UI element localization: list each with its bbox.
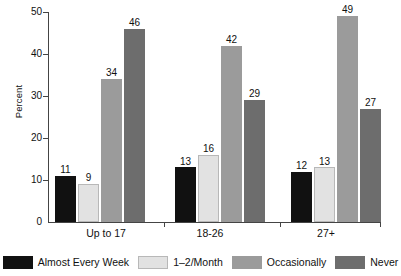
- legend-label: Never: [370, 256, 398, 268]
- legend-label: 1–2/Month: [173, 256, 223, 268]
- bar-18-26-occasionally: 42: [221, 46, 242, 222]
- bar-value-label: 13: [171, 156, 201, 167]
- bar-value-label: 13: [310, 156, 340, 167]
- bar-value-label: 27: [356, 97, 386, 108]
- y-tick-label-50: 50: [20, 7, 42, 17]
- x-tick-label-18-26: 18-26: [164, 227, 256, 239]
- legend-swatch-icon: [335, 256, 365, 269]
- bar-value-label: 16: [194, 143, 224, 154]
- bar-up-to-17-never: 46: [124, 29, 145, 222]
- bar-27-plus-1-2-month: 13: [314, 167, 335, 222]
- bar-18-26-never: 29: [244, 100, 265, 222]
- bar-value-label: 49: [333, 4, 363, 15]
- bar-27-plus-almost-every-week: 12: [291, 172, 312, 222]
- y-axis-tick-labels: 50 40 30 20 10 0: [16, 0, 42, 276]
- y-tick-label-10: 10: [20, 175, 42, 185]
- bar-group-18-26: 13 16 42 29: [175, 12, 265, 222]
- bar-up-to-17-occasionally: 34: [101, 79, 122, 222]
- y-tick-label-30: 30: [20, 91, 42, 101]
- bar-value-label: 42: [217, 34, 247, 45]
- x-axis-line: [48, 222, 381, 223]
- x-axis-separator-end: [380, 223, 381, 227]
- y-tick-label-20: 20: [20, 133, 42, 143]
- bar-18-26-1-2-month: 16: [198, 155, 219, 222]
- legend-swatch-icon: [138, 256, 168, 269]
- legend-swatch-icon: [3, 256, 33, 269]
- legend-item-1-2-month: 1–2/Month: [138, 256, 223, 269]
- bar-up-to-17-1-2-month: 9: [78, 184, 99, 222]
- plot-area: 11 9 34 46 13 16 42 29: [49, 12, 381, 222]
- x-tick-label-up-to-17: Up to 17: [60, 227, 152, 239]
- y-tick-label-40: 40: [20, 49, 42, 59]
- bar-27-plus-never: 27: [360, 109, 381, 222]
- legend-item-occasionally: Occasionally: [232, 256, 327, 269]
- legend-item-never: Never: [335, 256, 398, 269]
- legend-item-almost-every-week: Almost Every Week: [3, 256, 129, 269]
- chart-legend: Almost Every Week 1–2/Month Occasionally…: [0, 252, 401, 272]
- bar-value-label: 34: [97, 67, 127, 78]
- legend-label: Occasionally: [267, 256, 327, 268]
- legend-label: Almost Every Week: [38, 256, 129, 268]
- bar-18-26-almost-every-week: 13: [175, 167, 196, 222]
- bar-27-plus-occasionally: 49: [337, 16, 358, 222]
- bar-group-up-to-17: 11 9 34 46: [55, 12, 145, 222]
- bar-value-label: 29: [240, 88, 270, 99]
- bar-value-label: 9: [74, 172, 104, 183]
- bar-value-label: 46: [120, 17, 150, 28]
- bar-group-27-plus: 12 13 49 27: [291, 12, 381, 222]
- x-tick-label-27-plus: 27+: [280, 227, 372, 239]
- legend-swatch-icon: [232, 256, 262, 269]
- bar-chart: Percent 50 40 30 20 10 0 11 9 34 46: [0, 0, 401, 276]
- y-tick-label-0: 0: [20, 217, 42, 227]
